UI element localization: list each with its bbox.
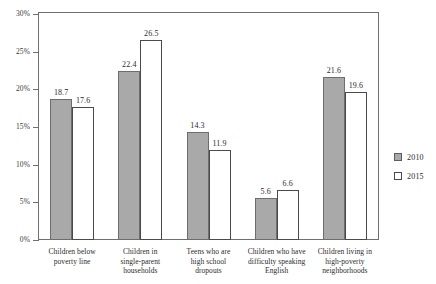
bar-value-label: 17.6	[66, 96, 100, 105]
bar-value-label: 26.5	[134, 29, 168, 38]
bar-value-label: 21.6	[317, 66, 351, 75]
legend-label-2010: 2010	[407, 153, 424, 162]
legend-swatch-2010-icon	[394, 153, 402, 161]
bars-layer: 18.717.622.426.514.311.95.66.621.619.6	[0, 0, 436, 284]
bar-2010-2[interactable]	[187, 132, 209, 240]
category-label-0: Children below poverty line	[38, 247, 106, 266]
bar-2010-4[interactable]	[323, 77, 345, 240]
bar-2010-0[interactable]	[50, 99, 72, 240]
bar-2015-3[interactable]	[277, 190, 299, 240]
bar-2010-3[interactable]	[255, 198, 277, 240]
legend-swatch-2015-icon	[394, 172, 402, 180]
legend-item-2015[interactable]: 2015	[394, 171, 424, 181]
bar-value-label: 14.3	[181, 121, 215, 130]
category-label-2: Teens who are high school dropouts	[174, 247, 242, 276]
bar-2015-2[interactable]	[209, 150, 231, 240]
bar-value-label: 11.9	[203, 139, 237, 148]
bar-chart: 0%5%10%15%20%25%30% 18.717.622.426.514.3…	[0, 0, 436, 284]
bar-value-label: 6.6	[271, 179, 305, 188]
bar-2015-1[interactable]	[140, 40, 162, 240]
bar-2015-0[interactable]	[72, 107, 94, 240]
bar-2015-4[interactable]	[345, 92, 367, 240]
legend-label-2015: 2015	[407, 172, 424, 181]
category-label-1: Children in single-parent households	[106, 247, 174, 276]
bar-value-label: 19.6	[339, 81, 373, 90]
legend-item-2010[interactable]: 2010	[394, 152, 424, 162]
bar-2010-1[interactable]	[118, 71, 140, 240]
category-label-3: Children who have difficulty speaking En…	[243, 247, 311, 276]
legend: 2010 2015	[394, 152, 424, 190]
category-label-4: Children living in high-poverty neighbor…	[311, 247, 379, 276]
